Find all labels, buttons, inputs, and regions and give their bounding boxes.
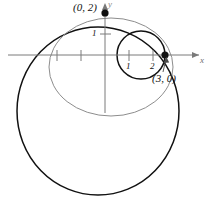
y-tick-label-1: 1 [92,29,97,38]
x-axis-arrowhead [192,52,199,58]
x-axis-label: x [200,56,204,65]
figure-canvas: (0, 2) (3, 0) 1 2 1 x y [0,0,210,203]
marker-point-0-2 [101,9,108,16]
x-tick-label-2: 2 [150,62,155,71]
point-3-0-label: (3, 0) [152,73,176,84]
x-tick-label-1: 1 [126,62,131,71]
plot-svg [0,0,210,203]
large-circle-curve [17,27,179,195]
point-0-2-label: (0, 2) [73,2,97,13]
marker-point-3-0 [161,51,168,58]
y-axis-label: y [108,0,112,9]
